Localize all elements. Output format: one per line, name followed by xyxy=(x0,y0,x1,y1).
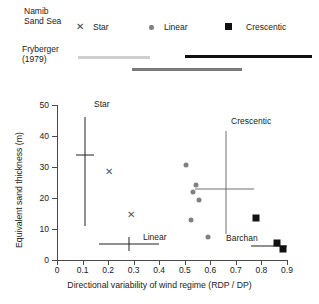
legend-x-cross-marker-icon: ✕ xyxy=(76,22,84,32)
x-tick-label-0.2: 0.2 xyxy=(95,266,121,275)
group-label-barchan: Barchan xyxy=(226,234,258,243)
legend-black-square-marker-icon xyxy=(225,23,232,30)
x-tick-label-0.4: 0.4 xyxy=(146,266,172,275)
legend-gray-circle-marker-icon xyxy=(149,25,154,30)
legend-fryberger-label: Fryberger (1979) xyxy=(22,44,59,64)
fryberger-linear-range-bar xyxy=(132,68,242,71)
group-label-linear: Linear xyxy=(143,233,167,242)
figure-root: Namib Sand Sea ✕ Star Linear Crescentic … xyxy=(0,0,319,304)
y-tick-20 xyxy=(52,198,57,199)
y-tick-label-20: 20 xyxy=(27,194,49,203)
legend-item-linear: Linear xyxy=(164,22,188,32)
legend-namib-label: Namib Sand Sea xyxy=(24,6,61,26)
x-axis-title: Directional variability of wind regime (… xyxy=(0,280,319,290)
x-tick-label-0.8: 0.8 xyxy=(248,266,274,275)
data-point-crescentic-1 xyxy=(253,215,260,222)
error-bar-star-horizontal xyxy=(76,155,94,156)
y-tick-label-40: 40 xyxy=(27,132,49,141)
data-point-linear-2 xyxy=(194,182,199,187)
y-tick-40 xyxy=(52,136,57,137)
data-point-star-1: ✕ xyxy=(105,167,113,177)
x-tick-label-0: 0 xyxy=(44,266,70,275)
y-tick-label-0: 0 xyxy=(27,256,49,265)
y-tick-50 xyxy=(52,105,57,106)
scatter-plot: 0 10 20 30 40 50 0 0.1 0.2 0.3 0.4 0.5 0… xyxy=(0,88,319,304)
y-tick-label-10: 10 xyxy=(27,225,49,234)
y-tick-label-50: 50 xyxy=(27,101,49,110)
data-point-linear-1 xyxy=(184,162,189,167)
y-axis-title: Equivalent sand thickness (m) xyxy=(14,132,24,248)
error-bar-star-vertical xyxy=(84,117,85,226)
group-label-star: Star xyxy=(94,100,110,109)
legend-item-star: Star xyxy=(93,22,109,32)
y-tick-30 xyxy=(52,167,57,168)
x-tick-label-0.7: 0.7 xyxy=(223,266,249,275)
x-tick-label-0.9: 0.9 xyxy=(274,266,300,275)
data-point-star-2: ✕ xyxy=(127,211,135,221)
x-tick-label-0.6: 0.6 xyxy=(197,266,223,275)
y-tick-label-30: 30 xyxy=(27,163,49,172)
error-bar-crescentic-vertical xyxy=(225,131,226,234)
data-point-linear-4 xyxy=(196,197,201,202)
data-point-linear-6 xyxy=(205,234,210,239)
error-bar-crescentic-horizontal xyxy=(195,189,254,190)
data-point-barchan-2 xyxy=(280,246,287,253)
x-tick-label-0.1: 0.1 xyxy=(70,266,96,275)
x-tick-label-0.5: 0.5 xyxy=(172,266,198,275)
x-tick-label-0.3: 0.3 xyxy=(121,266,147,275)
fryberger-crescentic-range-bar xyxy=(185,55,312,58)
group-label-crescentic: Crescentic xyxy=(231,117,271,126)
x-axis-line xyxy=(57,260,288,261)
data-point-linear-3 xyxy=(190,190,195,195)
legend-panel: Namib Sand Sea ✕ Star Linear Crescentic … xyxy=(0,0,319,80)
legend-item-crescentic: Crescentic xyxy=(246,22,286,32)
error-bar-linear-horizontal xyxy=(99,243,160,244)
data-point-linear-5 xyxy=(189,217,194,222)
y-tick-10 xyxy=(52,229,57,230)
fryberger-star-range-bar xyxy=(78,56,150,59)
y-axis-line xyxy=(57,105,58,261)
